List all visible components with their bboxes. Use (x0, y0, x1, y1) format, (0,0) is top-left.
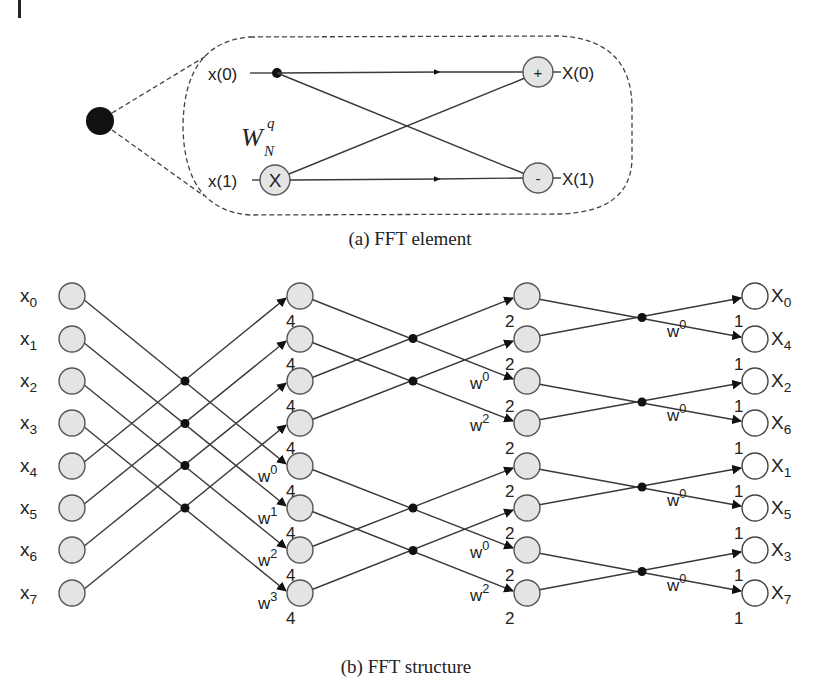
stage2-node-label: 2 (505, 312, 514, 331)
input-label: x5 (20, 497, 38, 522)
input-node (59, 326, 85, 352)
output-label: X2 (771, 370, 791, 395)
butterfly-junction-dot (638, 567, 647, 576)
stage2-node (514, 410, 540, 436)
stage1-node (287, 410, 313, 436)
multiplier-symbol: X (269, 170, 282, 191)
stage2-node-label: 2 (505, 482, 514, 501)
output-label: X0 (771, 285, 792, 310)
stage1-node (287, 368, 313, 394)
stage2-node-label: 2 (505, 397, 514, 416)
input-label: x4 (20, 455, 38, 480)
butterfly-junction-dot (409, 334, 418, 343)
stage2-node (514, 326, 540, 352)
stage2-node-label: 2 (505, 609, 514, 628)
output-label: X3 (771, 539, 791, 564)
butterfly-junction-dot (409, 377, 418, 386)
stage2-node (514, 283, 540, 309)
stage2-node (514, 580, 540, 606)
input-label: x0 (20, 285, 38, 310)
output-node (742, 326, 768, 352)
input-label: x3 (20, 412, 37, 437)
output-label: X7 (771, 582, 791, 607)
zoom-guide-line (112, 56, 206, 113)
output-label-X1: X(1) (562, 170, 594, 189)
butterfly-junction-dot (638, 313, 647, 322)
butterfly-junction-dot (181, 419, 190, 428)
stage3-node-label: 1 (734, 397, 743, 416)
svg-text:W: W (241, 123, 265, 152)
stage1-node (287, 283, 313, 309)
output-node (742, 410, 768, 436)
output-node (742, 453, 768, 479)
output-label: X6 (771, 412, 791, 437)
output-label: X1 (771, 455, 791, 480)
butterfly-junction-dot (181, 461, 190, 470)
stage3-node-label: 1 (734, 609, 743, 628)
output-node (742, 580, 768, 606)
fft-figure: x(0) x(1) X + - X(0) X(1) W q N x0X0421x… (0, 0, 826, 694)
stage3-node-label: 1 (734, 482, 743, 501)
caption-fft-element: (a) FFT element (348, 228, 471, 250)
twiddle-label: w0 (469, 369, 489, 393)
subtractor-symbol: - (536, 170, 541, 187)
twiddle-label: w0 (666, 571, 686, 595)
stage3-node-label: 1 (734, 566, 743, 585)
fft-element-diagram: x(0) x(1) X + - X(0) X(1) W q N (86, 36, 632, 215)
input-label-x1: x(1) (208, 172, 237, 191)
input-label: x6 (20, 539, 37, 564)
output-node (742, 368, 768, 394)
input-label: x1 (20, 328, 37, 353)
butterfly-junction-dot (409, 504, 418, 513)
twiddle-label: w0 (666, 401, 686, 425)
output-label-X0: X(0) (562, 64, 594, 83)
butterfly-junction-dot (638, 483, 647, 492)
output-node (742, 283, 768, 309)
twiddle-label: w2 (469, 411, 489, 435)
twiddle-label: w0 (666, 317, 686, 341)
twiddle-factor-label: W q N (241, 115, 275, 159)
twiddle-label: w2 (257, 546, 277, 570)
stage3-node-label: 1 (734, 355, 743, 374)
stage3-node-label: 1 (734, 439, 743, 458)
svg-text:q: q (267, 115, 275, 131)
input-node (59, 495, 85, 521)
output-node (742, 537, 768, 563)
adder-symbol: + (534, 64, 543, 81)
butterfly-junction-dot (181, 377, 190, 386)
twiddle-label: w2 (469, 581, 489, 605)
input-node (59, 453, 85, 479)
stage1-node (287, 326, 313, 352)
stage2-node (514, 537, 540, 563)
input-label: x7 (20, 582, 37, 607)
stage2-node-label: 2 (505, 439, 514, 458)
butterfly-node-icon (86, 107, 114, 135)
butterfly-junction-dot (638, 398, 647, 407)
input-node (59, 410, 85, 436)
input-node (59, 283, 85, 309)
svg-text:N: N (263, 143, 275, 159)
stage1-node (287, 453, 313, 479)
stage1-node (287, 537, 313, 563)
output-label: X5 (771, 497, 792, 522)
input-node (59, 368, 85, 394)
twiddle-label: w0 (257, 462, 277, 486)
twiddle-label: w0 (469, 538, 489, 562)
twiddle-label: w1 (257, 504, 277, 528)
stage3-node-label: 1 (734, 524, 743, 543)
stage2-node (514, 453, 540, 479)
stage1-node (287, 495, 313, 521)
stage1-node-label: 4 (286, 609, 295, 628)
stage2-node (514, 368, 540, 394)
butterfly-junction-dot (409, 546, 418, 555)
stage1-node (287, 580, 313, 606)
zoom-guide-line (112, 130, 204, 196)
stage2-node (514, 495, 540, 521)
twiddle-label: w3 (257, 589, 277, 613)
caption-fft-structure: (b) FFT structure (341, 656, 472, 678)
input-label: x2 (20, 370, 37, 395)
output-node (742, 495, 768, 521)
twiddle-label: w0 (666, 486, 686, 510)
butterfly-junction-dot (181, 504, 190, 513)
input-node (59, 580, 85, 606)
